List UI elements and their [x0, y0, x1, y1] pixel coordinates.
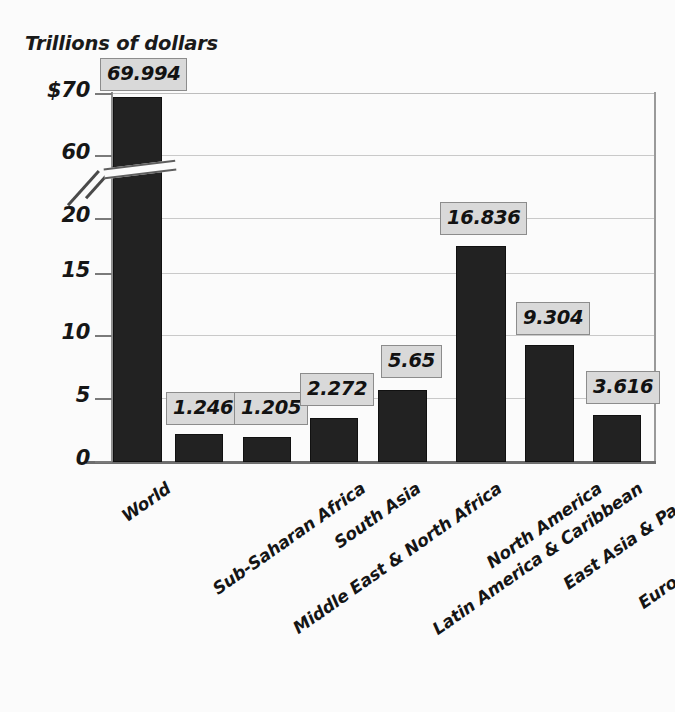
value-label-north-america: 16.836	[440, 202, 527, 235]
tick-70	[95, 93, 112, 95]
y-axis-label-0: 0	[20, 446, 90, 470]
value-label-europe-central-asia: 3.616	[586, 371, 660, 404]
y-axis-label-60: 60	[20, 140, 90, 164]
y-axis-label-10: 10	[20, 320, 90, 344]
y-axis-label-5: 5	[20, 383, 90, 407]
bar-chart: Trillions of dollars $70 60 20 15 10 5 0	[0, 0, 675, 712]
value-label-sub-saharan-africa: 1.246	[166, 392, 240, 425]
tick-0	[95, 461, 112, 463]
value-label-world: 69.994	[100, 58, 187, 91]
value-label-middle-east-north-africa: 1.205	[234, 392, 308, 425]
plot-right-border	[654, 92, 656, 463]
value-label-east-asia-pacific: 9.304	[516, 302, 590, 335]
bar-north-america	[456, 246, 506, 462]
chart-title: Trillions of dollars	[25, 32, 218, 55]
tick-5	[95, 398, 112, 400]
gridline-10	[112, 335, 655, 336]
value-label-south-asia: 2.272	[300, 373, 374, 406]
y-axis-label-70: $70	[20, 78, 90, 102]
bar-middle-east-north-africa	[243, 437, 291, 462]
tick-10	[95, 335, 112, 337]
gridline-20	[112, 218, 655, 219]
x-axis-label-world: World	[118, 478, 174, 526]
gridline-60	[112, 155, 655, 156]
y-axis-label-20: 20	[20, 203, 90, 227]
value-label-latin-america-caribbean: 5.65	[381, 345, 442, 378]
y-axis-label-15: 15	[20, 258, 90, 282]
bar-south-asia	[310, 418, 358, 462]
bar-east-asia-pacific	[525, 345, 574, 462]
bar-sub-saharan-africa	[175, 434, 223, 462]
tick-20	[95, 218, 112, 220]
gridline-15	[112, 273, 655, 274]
tick-60	[95, 155, 112, 157]
tick-15	[95, 273, 112, 275]
bar-world	[113, 97, 162, 462]
bar-europe-central-asia	[593, 415, 641, 462]
bar-latin-america-caribbean	[378, 390, 427, 462]
gridline-70	[112, 93, 655, 94]
